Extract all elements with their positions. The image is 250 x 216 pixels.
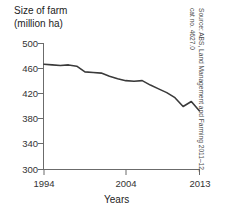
y-tick-label-300: 300 <box>12 164 38 175</box>
source-note-line1: Source: ABS, Land Management and Farming… <box>197 8 206 158</box>
y-tick-label-500: 500 <box>12 38 38 49</box>
x-tick-label-1994: 1994 <box>26 178 62 189</box>
y-tick-label-340: 340 <box>12 138 38 149</box>
x-tick-label-2004: 2004 <box>108 178 144 189</box>
source-note-line2: cat no. 4627.0 <box>188 8 197 158</box>
source-note: Source: ABS, Land Management and Farming… <box>188 8 206 158</box>
y-tick-label-460: 460 <box>12 63 38 74</box>
x-axis-title: Years <box>104 194 129 207</box>
chart-figure: Size of farm (million ha) 500 460 420 38… <box>0 0 250 216</box>
data-series-line <box>44 64 200 111</box>
y-tick-label-420: 420 <box>12 88 38 99</box>
x-tick-label-2013: 2013 <box>182 178 218 189</box>
y-tick-label-380: 380 <box>12 113 38 124</box>
x-axis-ticks <box>44 170 200 176</box>
y-axis-ticks <box>38 44 44 170</box>
